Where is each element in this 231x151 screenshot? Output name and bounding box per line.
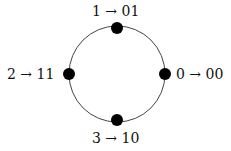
node-0-dot <box>159 68 171 80</box>
node-1-dot <box>111 22 123 34</box>
node-2-label: 2 → 11 <box>7 67 54 81</box>
node-1-label: 1 → 01 <box>92 4 139 18</box>
node-2-dot <box>63 68 75 80</box>
node-3-label: 3 → 10 <box>92 131 139 145</box>
node-0-label: 0 → 00 <box>176 67 223 81</box>
ring <box>69 26 165 122</box>
node-3-dot <box>111 114 123 126</box>
